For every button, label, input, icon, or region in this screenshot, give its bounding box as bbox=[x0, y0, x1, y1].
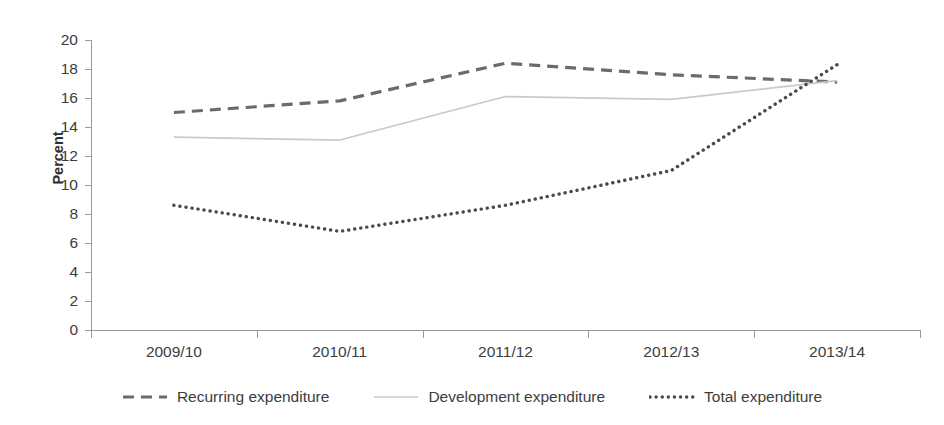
x-tick-mark bbox=[423, 331, 424, 338]
y-tick-label: 18 bbox=[22, 61, 78, 77]
y-tick-label: 10 bbox=[22, 177, 78, 193]
series-line-development-expenditure bbox=[174, 81, 837, 140]
y-tick-mark bbox=[85, 301, 91, 302]
x-tick-label: 2011/12 bbox=[436, 343, 576, 362]
chart-legend: Recurring expenditureDevelopment expendi… bbox=[0, 380, 944, 414]
y-tick-mark bbox=[85, 243, 91, 244]
legend-item-total-expenditure[interactable]: Total expenditure bbox=[649, 388, 822, 406]
x-axis-line bbox=[91, 330, 921, 331]
chart-figure: Figure 4: Education expenditure as a sha… bbox=[0, 0, 944, 425]
y-tick-label: 8 bbox=[22, 206, 78, 222]
y-tick-mark bbox=[85, 98, 91, 99]
y-tick-label: 6 bbox=[22, 235, 78, 251]
y-tick-mark bbox=[85, 185, 91, 186]
legend-item-development-expenditure[interactable]: Development expenditure bbox=[373, 388, 605, 406]
legend-swatch-dashed-icon bbox=[122, 390, 168, 404]
y-tick-label: 4 bbox=[22, 264, 78, 280]
y-tick-mark bbox=[85, 69, 91, 70]
y-tick-label: 16 bbox=[22, 90, 78, 106]
x-tick-mark bbox=[754, 331, 755, 338]
legend-swatch-solid-icon bbox=[373, 390, 419, 404]
y-tick-label: 20 bbox=[22, 32, 78, 48]
y-tick-mark bbox=[85, 214, 91, 215]
x-tick-label: 2013/14 bbox=[767, 343, 907, 362]
y-axis-line bbox=[91, 40, 92, 331]
legend-swatch-dotted-icon bbox=[649, 390, 695, 404]
series-line-recurring-expenditure bbox=[174, 63, 837, 112]
legend-label: Development expenditure bbox=[428, 388, 605, 406]
y-tick-label: 2 bbox=[22, 293, 78, 309]
x-tick-mark bbox=[91, 331, 92, 338]
x-tick-label: 2009/10 bbox=[104, 343, 244, 362]
y-tick-label: 0 bbox=[22, 322, 78, 338]
y-tick-mark bbox=[85, 272, 91, 273]
y-tick-mark bbox=[85, 156, 91, 157]
y-tick-mark bbox=[85, 127, 91, 128]
x-tick-label: 2010/11 bbox=[270, 343, 410, 362]
series-line-total-expenditure bbox=[174, 65, 837, 232]
x-tick-mark bbox=[257, 331, 258, 338]
legend-item-recurring-expenditure[interactable]: Recurring expenditure bbox=[122, 388, 330, 406]
y-tick-label: 12 bbox=[22, 148, 78, 164]
x-tick-mark bbox=[920, 331, 921, 338]
y-tick-mark bbox=[85, 40, 91, 41]
legend-label: Total expenditure bbox=[704, 388, 822, 406]
x-tick-mark bbox=[588, 331, 589, 338]
x-tick-label: 2012/13 bbox=[601, 343, 741, 362]
y-tick-label: 14 bbox=[22, 119, 78, 135]
legend-label: Recurring expenditure bbox=[177, 388, 330, 406]
